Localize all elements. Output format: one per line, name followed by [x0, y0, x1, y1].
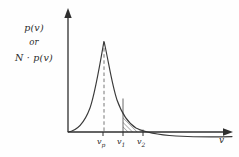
- tick-label-v1: v1: [117, 137, 125, 148]
- tick-label-vp-sub: p: [102, 141, 106, 148]
- tick-label-v2: v2: [137, 137, 145, 148]
- distribution-curve: [68, 41, 232, 137]
- x-axis-variable-label: v: [219, 135, 224, 145]
- y-axis-label-line3: N · p(v): [8, 50, 60, 65]
- hatched-area: [123, 30, 143, 132]
- y-axis-label-line2: or: [8, 35, 60, 50]
- hatched-area-group: [123, 30, 143, 132]
- x-axis-arrow-icon: [223, 128, 233, 135]
- tick-label-v2-sub: 2: [142, 141, 146, 148]
- tick-label-vp: vp: [97, 137, 105, 148]
- y-axis-arrow-icon: [64, 8, 71, 18]
- distribution-figure: p(v) or N · p(v) vp v1 v2 v: [0, 0, 239, 157]
- y-axis-label-line1: p(v): [8, 20, 60, 35]
- tick-label-v1-sub: 1: [122, 141, 126, 148]
- y-axis-label: p(v) or N · p(v): [8, 20, 60, 65]
